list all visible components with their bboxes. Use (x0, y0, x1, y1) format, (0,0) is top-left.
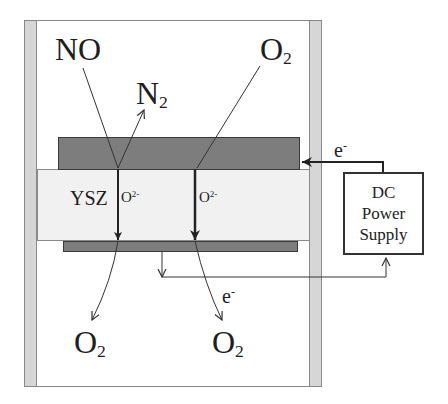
o2-outgoing-arrow-left (92, 241, 118, 320)
label-no: NO (55, 33, 101, 65)
o2-outgoing-arrow-right (195, 241, 222, 320)
label-ysz: YSZ (70, 188, 108, 208)
label-electron-top: e- (334, 140, 347, 160)
circuit-wire-top (302, 162, 383, 172)
label-electron-bottom: e- (222, 286, 235, 306)
label-o2-out-right: O2 (212, 326, 244, 361)
label-o2-in: O2 (260, 33, 292, 68)
n2-outgoing-arrow (118, 110, 144, 168)
circuit-wire-bottom (162, 258, 386, 277)
label-o2-out-left: O2 (74, 326, 106, 361)
label-n2: N2 (136, 77, 168, 112)
o2-incoming-line (197, 66, 260, 168)
label-oxide-ion-left: O2- (121, 190, 139, 205)
label-oxide-ion-right: O2- (199, 190, 217, 205)
no-incoming-line (83, 68, 118, 168)
